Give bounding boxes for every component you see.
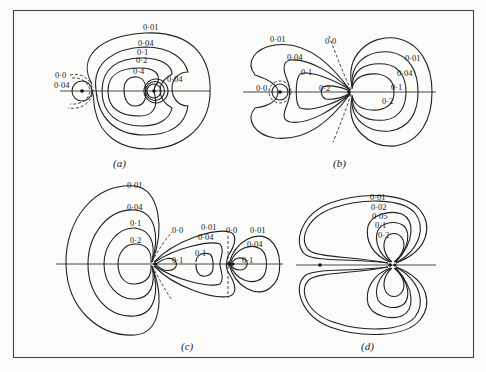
contour-label: 0·0 — [256, 83, 267, 93]
panel-caption-a: (a) — [113, 157, 126, 170]
contour-label: 0·01 — [370, 192, 386, 202]
contour-label: 0·04 — [54, 80, 70, 90]
panel-caption-c: (c) — [181, 340, 194, 353]
contour-label: 0·1 — [242, 255, 253, 265]
contour-label: 0·0 — [226, 225, 237, 235]
contour-label: 0·1 — [391, 82, 402, 92]
panel-caption-b: (b) — [333, 157, 346, 170]
contour-label: 0·0 — [172, 225, 183, 235]
contour-label: 0·1 — [172, 255, 183, 265]
contour-label: 0·2 — [130, 235, 141, 245]
contour-label: 0·1 — [375, 220, 386, 230]
panel-b: 0·01 0·0 0·04 0·1 0·2 0·0 0·01 0·04 0·1 … — [243, 34, 436, 170]
contour-label: 0·01 — [127, 180, 143, 190]
contour-label: 0·01 — [201, 222, 217, 232]
contour-label: 0·2 — [136, 55, 147, 65]
contour-label: 0·0 — [55, 70, 66, 80]
contour-label: 0·2 — [378, 230, 389, 240]
contour-figure: 0·01 0·04 0·1 0·2 0·4 0·04 0·0 0·04 (a) … — [0, 0, 486, 372]
contour-label: 0·04 — [247, 239, 263, 249]
contour-label: 0·04 — [127, 202, 143, 212]
contour-label: 0·1 — [301, 67, 312, 77]
contour-label: 0·01 — [143, 22, 159, 32]
contour-label: 0·2 — [319, 83, 330, 93]
contour-label: 0·04 — [397, 68, 413, 78]
panel-d: 0·01 0·02 0·05 0·1 0·2 (d) — [296, 192, 436, 353]
contour-label: 0·01 — [405, 53, 421, 63]
panel-c: 0·01 0·04 0·1 0·2 0·0 0·1 0·01 0·04 0·1 … — [56, 180, 283, 353]
contour-label: 0·0 — [325, 36, 336, 46]
contour-label: 0·01 — [250, 225, 266, 235]
contour-label: 0·4 — [133, 66, 145, 76]
panel-caption-d: (d) — [361, 340, 374, 353]
contour-label: 0·01 — [270, 34, 286, 44]
contour-label: 0·1 — [130, 218, 141, 228]
panel-a: 0·01 0·04 0·1 0·2 0·4 0·04 0·0 0·04 (a) — [54, 22, 210, 170]
contour-label: 0·04 — [198, 232, 214, 242]
contour-label: 0·2 — [382, 96, 393, 106]
contour-label: 0·1 — [195, 248, 206, 258]
contour-label: 0·04 — [167, 74, 183, 84]
contour-label: 0·04 — [287, 52, 303, 62]
